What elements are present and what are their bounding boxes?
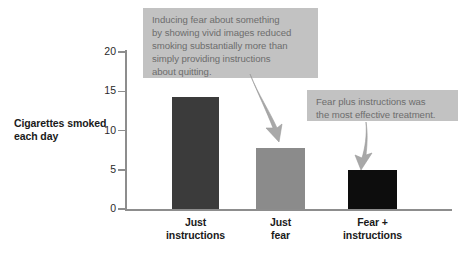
annotation-line-3: smoking substantially more than xyxy=(152,39,310,52)
annotation-arrow-1-icon xyxy=(248,72,294,150)
y-tick-label-3: 15 xyxy=(96,85,116,96)
category-label-fear-plus-instructions: Fear + instructions xyxy=(318,216,428,242)
y-tick-0 xyxy=(118,208,126,210)
category-label-line-1: Fear + xyxy=(318,216,428,229)
annotation-line-2: the most effective treatment. xyxy=(316,108,450,121)
bar-chart: Cigarettes smoked each day 0 5 10 15 20 … xyxy=(0,0,463,253)
annotation-line-5: about quitting. xyxy=(152,65,310,78)
annotation-line-1: Fear plus instructions was xyxy=(316,95,450,108)
y-tick-label-1: 5 xyxy=(96,164,116,175)
y-tick-label-0: 0 xyxy=(96,203,116,214)
x-axis-line xyxy=(125,209,452,211)
category-label-line-2: instructions xyxy=(318,229,428,242)
y-tick-4 xyxy=(118,51,126,53)
y-tick-2 xyxy=(118,130,126,132)
annotation-line-2: by showing vivid images reduced xyxy=(152,26,310,39)
annotation-arrow-2-icon xyxy=(350,120,384,174)
y-tick-label-2: 10 xyxy=(96,125,116,136)
annotation-line-1: Inducing fear about something xyxy=(152,13,310,26)
annotation-callout-best-treatment: Fear plus instructions was the most effe… xyxy=(307,90,458,121)
bar-fear-plus-instructions xyxy=(348,170,397,209)
annotation-callout-fear-effect: Inducing fear about something by showing… xyxy=(143,8,318,78)
annotation-line-4: simply providing instructions xyxy=(152,52,310,65)
y-tick-3 xyxy=(118,91,126,93)
y-tick-1 xyxy=(118,169,126,171)
bar-just-instructions xyxy=(172,97,219,209)
y-tick-label-4: 20 xyxy=(96,46,116,57)
bar-just-fear xyxy=(256,148,305,209)
